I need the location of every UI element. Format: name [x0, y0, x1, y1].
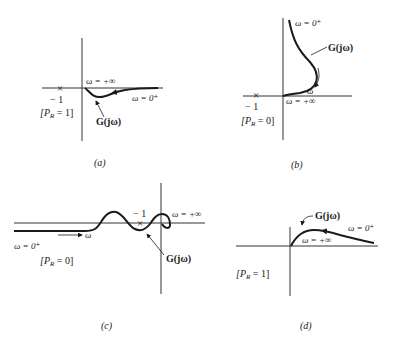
nyquist-figure: × − 1 ω = +∞ ω = 0⁺ [PR = 1] G(jω) (a) ×…: [0, 0, 393, 341]
panel-a: × − 1 ω = +∞ ω = 0⁺ [PR = 1] G(jω) (a): [40, 38, 163, 169]
omega-infinity-label: ω = +∞: [86, 76, 115, 86]
omega-direction-label: ω: [307, 86, 313, 96]
minus-one-label: − 1: [50, 94, 63, 105]
panel-c: ω × − 1 ω = +∞ ω = 0⁺ G(jω) [PR = 0] (c): [14, 183, 205, 332]
g-label-leader: [96, 101, 104, 117]
omega-zero-label: ω = 0⁺: [348, 223, 374, 233]
g-label: G(jω): [166, 253, 191, 265]
minus-one-label: − 1: [133, 208, 146, 219]
omega-direction-label: ω: [85, 230, 91, 240]
critical-point-marker: ×: [253, 89, 259, 101]
minus-one-label: − 1: [245, 101, 258, 112]
g-label: G(jω): [96, 116, 121, 128]
pr-label: [PR = 1]: [236, 268, 269, 281]
pr-label: [PR = 0]: [241, 115, 274, 128]
omega-zero-label: ω = 0⁺: [132, 93, 158, 103]
panel-b: × − 1 ω = 0⁺ G(jω) ω ω = +∞ [PR = 0] (b): [241, 18, 353, 171]
nyquist-curve: [14, 212, 170, 231]
caption-a: (a): [94, 157, 106, 169]
omega-zero-label: ω = 0⁺: [14, 241, 40, 251]
nyquist-curve: [283, 20, 317, 96]
panel-d: G(jω) ω = 0⁺ ω = +∞ [PR = 1] (d): [236, 210, 378, 332]
omega-infinity-label: ω = +∞: [172, 209, 201, 219]
g-label-leader: [302, 216, 313, 225]
caption-d: (d): [300, 320, 312, 332]
omega-infinity-label: ω = +∞: [286, 96, 315, 106]
omega-zero-label: ω = 0⁺: [295, 18, 321, 28]
omega-infinity-label: ω = +∞: [302, 235, 331, 245]
g-label: G(jω): [315, 210, 340, 222]
g-label: G(jω): [328, 42, 353, 54]
g-label-leader: [311, 47, 327, 55]
caption-b: (b): [291, 159, 303, 171]
pr-label: [PR = 0]: [40, 255, 73, 268]
pr-label: [PR = 1]: [40, 107, 73, 120]
critical-point-marker: ×: [57, 82, 63, 94]
caption-c: (c): [101, 320, 113, 332]
